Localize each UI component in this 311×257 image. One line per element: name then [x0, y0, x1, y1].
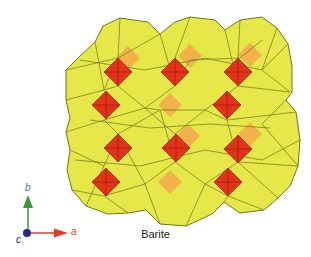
b-axis-label: b [25, 182, 31, 193]
figure-caption: Barite [0, 228, 311, 240]
polyhedra-layer [66, 17, 300, 226]
b-axis-arrow-icon [23, 195, 33, 208]
barite-crystal-structure [0, 0, 311, 257]
